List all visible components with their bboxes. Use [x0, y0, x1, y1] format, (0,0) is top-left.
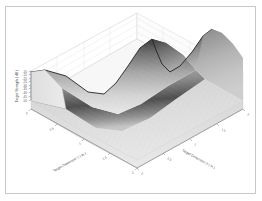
z-tick-label: -20 [23, 77, 28, 81]
y-tick-label: 0 [141, 171, 145, 175]
x-tick-label: 1.5 [102, 155, 108, 161]
figure-container: -50 -45 -40 -35 -30 -25 -20 -15 -10 0 [0, 0, 262, 201]
y-tick-label: 1.5 [221, 127, 227, 133]
x-axis-label: Target Dimension 1 ( m ) [52, 151, 86, 172]
z-tick-label: -10 [23, 70, 28, 74]
x-tick-label: 0 [25, 111, 29, 115]
surface-plot-svg: -50 -45 -40 -35 -30 -25 -20 -15 -10 0 [0, 0, 262, 201]
z-tick-label: -45 [23, 95, 28, 99]
z-tick-label: -40 [23, 91, 28, 95]
x-tick-label: 2 [131, 170, 135, 174]
x-tick-label: 0.5 [49, 126, 55, 132]
x-tick-label: 1 [78, 141, 82, 145]
z-tick-labels: -50 -45 -40 -35 -30 -25 -20 -15 -10 [23, 70, 28, 103]
y-tick-label: 2 [247, 112, 251, 116]
surface-plot-3d: -50 -45 -40 -35 -30 -25 -20 -15 -10 0 [0, 0, 262, 201]
y-axis-label: Target Dimension 2 ( m ) [181, 148, 215, 169]
z-axis-label: Target Strength ( dB ) [15, 70, 19, 102]
y-tick-label: 1 [194, 142, 198, 146]
y-tick-label: 0.5 [167, 156, 173, 162]
z-tick-label: -50 [23, 99, 28, 103]
z-tick-label: -30 [23, 84, 28, 88]
z-axis-ticks [29, 71, 31, 101]
